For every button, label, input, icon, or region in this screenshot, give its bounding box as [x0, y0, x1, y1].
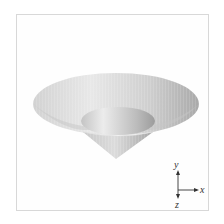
inner-cone-opening [81, 107, 155, 135]
axis-indicator: y x z [173, 159, 205, 210]
z-axis-label: z [174, 199, 179, 210]
y-axis-label: y [173, 159, 179, 170]
x-axis-label: x [199, 184, 205, 195]
cone-surface-figure: y x z [0, 0, 224, 224]
y-arrowhead-icon [176, 170, 180, 175]
x-arrowhead-icon [194, 188, 199, 192]
